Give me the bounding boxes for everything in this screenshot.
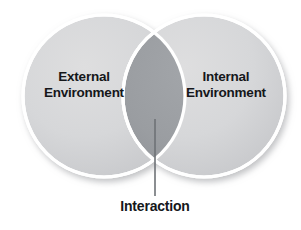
venn-diagram-figure: External Environment Internal Environmen… bbox=[0, 0, 301, 230]
venn-diagram-graphic bbox=[0, 0, 301, 230]
